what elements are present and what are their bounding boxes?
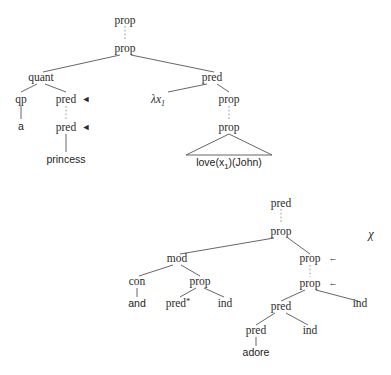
node-ind-3: ind [303,324,318,336]
leaf-princess: princess [46,153,85,165]
node-ind-1: ind [218,297,233,309]
left-arrow-icon-2: ← [329,278,338,288]
edge-propmid-ind [204,288,224,297]
leaf-and: and [128,297,146,309]
tree-svg-canvas: prop prop quant pred qp pred ◄ pred ◄ a … [0,0,391,375]
node-root-prop: prop [114,14,135,27]
node-pred-star: pred* [166,296,191,311]
node-mod: mod [167,252,188,264]
edge-pred-lambda [168,84,207,92]
leaf-adore: adore [243,346,270,358]
edge-prop-mod [180,238,274,254]
node-prop-4: prop [218,121,239,134]
edge-prop2-quant [43,55,120,72]
node-pred-big: pred [271,300,292,313]
lower-tree-group: pred prop χ mod prop ← con prop prop ← a… [128,197,374,358]
node-pred-quant-2: pred [56,121,77,134]
edge-triangle-left [186,134,229,155]
formula-suffix: )(John) [229,156,262,168]
node-lower-prop-top: prop [270,225,291,238]
node-prop-3: prop [218,93,239,106]
node-prop-right-2: prop [299,277,320,290]
leaf-a: a [18,120,24,132]
left-arrow-icon-1: ← [329,253,338,263]
pred-star-text: pred [166,297,187,310]
node-pred-quant-1: pred [56,93,77,106]
edge-pred-prop3 [217,84,229,92]
left-triangle-marker-icon-2: ◄ [82,122,91,132]
edge-triangle-right [229,134,272,155]
node-quant: quant [28,71,54,84]
left-triangle-marker-icon-1: ◄ [82,94,91,104]
node-prop-right-1: prop [299,252,320,265]
node-qp: qp [15,93,27,106]
node-prop-mid: prop [189,275,210,288]
figure-canvas: prop prop quant pred qp pred ◄ pred ◄ a … [0,0,391,375]
formula-prefix: love(x [196,156,225,168]
lambda-subscript: 1 [161,99,165,108]
annotation-chi: χ [367,227,374,241]
node-prop-2: prop [114,42,135,55]
node-lambda-abstractor: λx1 [150,93,165,108]
leaf-logical-formula: love(x1)(John) [196,156,262,171]
edge-quant-qp [21,84,37,92]
upper-tree-group: prop prop quant pred qp pred ◄ pred ◄ a … [15,14,272,171]
node-ind-2: ind [353,297,368,309]
node-pred-small: pred [246,324,267,337]
node-lower-root-pred: pred [271,197,292,210]
pred-star-superscript: * [186,296,190,306]
node-pred-right: pred [202,71,223,84]
edge-quant-pred-q1 [45,84,66,92]
node-con: con [129,275,146,287]
edge-prop2-pred-right [131,55,214,72]
